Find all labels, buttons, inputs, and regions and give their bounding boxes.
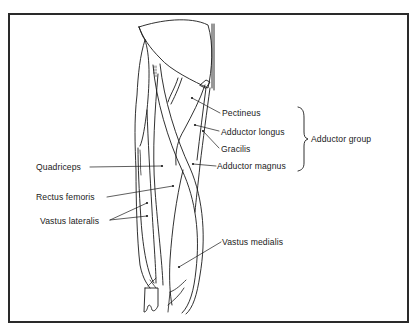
sartorius-band — [153, 64, 203, 314]
lateral-outline — [135, 40, 156, 288]
hip-outline — [139, 20, 214, 90]
label-adductor-magnus: Adductor magnus — [217, 161, 286, 171]
label-rectus-femoris: Rectus femoris — [36, 192, 95, 202]
label-vastus-lateralis: Vastus lateralis — [40, 216, 99, 226]
label-gracilis: Gracilis — [221, 144, 250, 154]
label-adductor-group: Adductor group — [311, 134, 371, 144]
knee-outline — [144, 278, 186, 312]
label-vastus-medialis: Vastus medialis — [222, 237, 283, 247]
adductor-group-brace — [298, 107, 308, 171]
label-pectineus: Pectineus — [222, 108, 261, 118]
label-adductor-longus: Adductor longus — [221, 127, 285, 137]
adductor-lines — [168, 78, 210, 212]
label-quadriceps: Quadriceps — [36, 162, 81, 172]
